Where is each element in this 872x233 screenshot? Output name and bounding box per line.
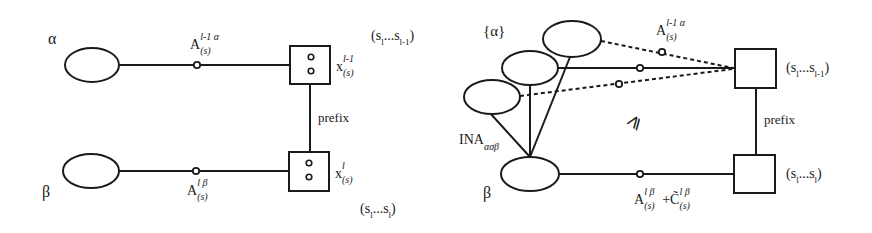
top-box (290, 46, 330, 84)
edge-bottom-sup: l β (197, 178, 207, 188)
top-box-state-label: xl-1(s) (336, 60, 343, 74)
edge-top-sub: (s) (200, 46, 211, 56)
bottom-box-dot-1 (306, 160, 312, 166)
bottom-box (289, 152, 329, 191)
prefix-label-right: prefix (764, 113, 795, 126)
right-edge-bottom-marker (637, 171, 643, 177)
top-box-dot-2 (308, 68, 314, 74)
node-alpha-ellipse (65, 48, 119, 82)
edge-bottom-sub: (s) (197, 192, 208, 202)
alpha-set-ellipse-mid (502, 51, 558, 85)
bottom-box-dot-2 (306, 174, 312, 180)
diagram-canvas (0, 0, 872, 233)
right-beta-label: β (483, 185, 491, 201)
beta-label: β (42, 184, 50, 200)
prefix-label-left: prefix (318, 111, 349, 124)
bottom-box-state-label: xl(s) (335, 167, 342, 181)
right-edge-bottom-weight-label: Al β(s)+C̃l β(s) (634, 193, 679, 207)
right-top-box (735, 49, 776, 88)
alpha-set-label: {α} (483, 24, 505, 39)
edge-top-marker (194, 62, 200, 68)
edge-left-dashed-marker (616, 81, 622, 87)
top-box-sequence-label: (sl...sl-1) (371, 29, 414, 43)
node-beta-ellipse (63, 154, 119, 188)
edge-mid-marker (637, 65, 643, 71)
alpha-set-ellipse-top (543, 21, 601, 57)
right-bottom-box (734, 155, 775, 193)
edge-top-weight-label: Al-1 α(s) (190, 38, 200, 52)
edge-top-sup: l-1 α (200, 32, 219, 42)
bottom-box-sequence-label: (sl...sl) (360, 202, 396, 216)
edge-bottom-weight-label: Al β(s) (187, 184, 197, 198)
right-edge-top-weight-label: Al-1 α(s) (656, 24, 666, 38)
top-box-dot-1 (308, 54, 314, 60)
alpha-label: α (48, 31, 56, 47)
right-node-beta-ellipse (501, 157, 559, 191)
edge-bottom-marker (193, 168, 199, 174)
right-top-box-sequence-label: (sl...sl-1) (786, 61, 829, 75)
edge-top-dashed-marker (659, 49, 665, 55)
ina-label: INAασβ (459, 133, 484, 147)
edge-top-dashed (601, 41, 733, 68)
right-bottom-box-sequence-label: (sl...sl) (786, 167, 822, 181)
alpha-set-ellipse-left (464, 80, 520, 114)
